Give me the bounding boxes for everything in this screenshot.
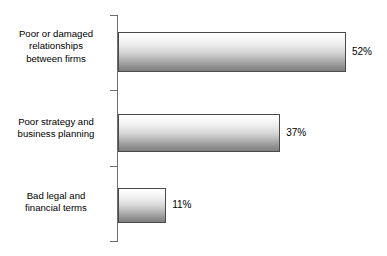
- value-label-1: 52%: [352, 47, 372, 57]
- axis-tick-between-2-3: [110, 166, 118, 167]
- bar-series-3: [118, 188, 166, 223]
- category-label-3-line-2: financial terms: [4, 202, 108, 214]
- category-label-2: Poor strategy and business planning: [4, 116, 108, 141]
- category-label-2-line-1: Poor strategy and: [4, 116, 108, 128]
- value-label-2: 37%: [286, 128, 306, 138]
- category-label-1-line-2: relationships: [4, 40, 108, 52]
- category-label-1-line-3: between firms: [4, 53, 108, 65]
- axis-tick-top: [110, 15, 118, 16]
- bar-series-1: [118, 32, 346, 72]
- category-label-3-line-1: Bad legal and: [4, 190, 108, 202]
- axis-tick-bottom: [110, 241, 118, 242]
- category-label-3: Bad legal and financial terms: [4, 190, 108, 215]
- category-label-2-line-2: business planning: [4, 128, 108, 140]
- axis-tick-between-1-2: [110, 90, 118, 91]
- category-label-1-line-1: Poor or damaged: [4, 28, 108, 40]
- value-label-3: 11%: [172, 200, 191, 210]
- bar-series-2: [118, 114, 280, 152]
- category-label-1: Poor or damaged relationships between fi…: [4, 28, 108, 65]
- bar-chart: Poor or damaged relationships between fi…: [0, 0, 387, 256]
